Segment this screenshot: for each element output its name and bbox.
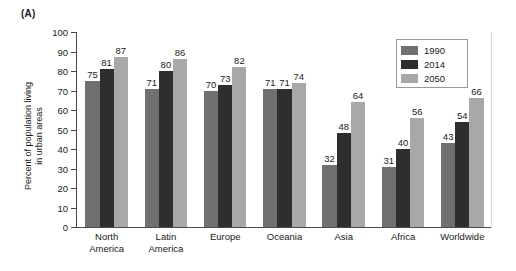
legend-label: 2050 xyxy=(424,73,445,84)
bar: 71 xyxy=(145,89,159,227)
y-tick-label: 10 xyxy=(57,202,68,213)
bar-value-label: 43 xyxy=(443,131,454,142)
x-axis-category-line: America xyxy=(136,243,195,255)
x-axis-category-line: North xyxy=(77,231,136,243)
bar: 82 xyxy=(232,67,246,227)
x-axis-category-line: America xyxy=(77,243,136,255)
bar-value-label: 81 xyxy=(101,57,112,68)
bar-value-label: 87 xyxy=(116,45,127,56)
bar: 74 xyxy=(292,83,306,227)
bar-value-label: 73 xyxy=(220,73,231,84)
x-axis-category-label: Europe xyxy=(196,231,255,243)
figure-panel-a: (A) Percent of population living in urba… xyxy=(0,0,516,271)
bar: 43 xyxy=(441,143,455,227)
y-tick-mark xyxy=(71,130,76,131)
bar-value-label: 40 xyxy=(398,137,409,148)
legend-item-1990: 1990 xyxy=(401,43,463,57)
x-axis-category-line: Africa xyxy=(373,231,432,243)
bar-group: 707382 xyxy=(204,32,247,227)
bar-value-label: 31 xyxy=(384,155,395,166)
legend-swatch-icon xyxy=(401,46,418,55)
bar: 86 xyxy=(173,59,187,227)
y-axis-title-line-1: Percent of population living xyxy=(23,82,34,190)
x-axis-category-line: Latin xyxy=(136,231,195,243)
legend-label: 2014 xyxy=(424,59,445,70)
bar: 64 xyxy=(351,102,365,227)
bar-value-label: 70 xyxy=(206,79,217,90)
legend-swatch-icon xyxy=(401,74,418,83)
bar: 80 xyxy=(159,71,173,227)
bar: 66 xyxy=(469,98,483,227)
y-tick-mark xyxy=(71,52,76,53)
bar: 71 xyxy=(263,89,277,227)
y-tick-label: 80 xyxy=(57,66,68,77)
y-tick-label: 100 xyxy=(52,27,68,38)
x-axis-category-line: Worldwide xyxy=(433,231,492,243)
bar: 70 xyxy=(204,91,218,228)
legend-item-2014: 2014 xyxy=(401,57,463,71)
bar-value-label: 64 xyxy=(353,90,364,101)
y-tick-label: 90 xyxy=(57,46,68,57)
bar-value-label: 66 xyxy=(471,86,482,97)
bar-value-label: 71 xyxy=(279,77,290,88)
x-axis-category-line: Asia xyxy=(314,231,373,243)
bar: 54 xyxy=(455,122,469,227)
chart-legend: 199020142050 xyxy=(396,39,468,88)
y-tick-mark xyxy=(71,169,76,170)
x-axis-category-label: Worldwide xyxy=(433,231,492,243)
bar-value-label: 71 xyxy=(146,77,157,88)
bar-group: 718086 xyxy=(145,32,188,227)
bar-value-label: 75 xyxy=(87,69,98,80)
x-axis-category-label: NorthAmerica xyxy=(77,231,136,255)
y-tick-label: 30 xyxy=(57,163,68,174)
y-tick-mark xyxy=(71,91,76,92)
x-axis-category-label: Asia xyxy=(314,231,373,243)
x-axis-category-label: LatinAmerica xyxy=(136,231,195,255)
y-tick-mark xyxy=(71,149,76,150)
y-axis-title-line-2: in urban areas xyxy=(34,107,45,165)
bar: 73 xyxy=(218,85,232,227)
bar-value-label: 74 xyxy=(293,71,304,82)
legend-item-2050: 2050 xyxy=(401,71,463,85)
bar: 71 xyxy=(277,89,291,227)
bar-value-label: 48 xyxy=(338,121,349,132)
bar-value-label: 54 xyxy=(457,110,468,121)
bar: 31 xyxy=(382,167,396,227)
y-tick-label: 60 xyxy=(57,105,68,116)
y-tick-label: 70 xyxy=(57,85,68,96)
bar-group: 758187 xyxy=(85,32,128,227)
y-tick-mark xyxy=(71,208,76,209)
bar: 81 xyxy=(100,69,114,227)
x-axis-category-label: Oceania xyxy=(255,231,314,243)
bar-value-label: 82 xyxy=(234,55,245,66)
y-tick-label: 50 xyxy=(57,124,68,135)
bar: 56 xyxy=(410,118,424,227)
bar-group: 717174 xyxy=(263,32,306,227)
y-axis-title: Percent of population living in urban ar… xyxy=(21,41,47,231)
bar-value-label: 86 xyxy=(175,47,186,58)
bar: 40 xyxy=(396,149,410,227)
x-axis-category-label: Africa xyxy=(373,231,432,243)
bar-value-label: 32 xyxy=(324,153,335,164)
bar: 87 xyxy=(114,57,128,227)
y-tick-label: 0 xyxy=(63,222,68,233)
y-tick-mark xyxy=(71,71,76,72)
legend-swatch-icon xyxy=(401,60,418,69)
bar: 75 xyxy=(85,81,99,227)
y-tick-mark xyxy=(71,188,76,189)
bar: 32 xyxy=(322,165,336,227)
x-axis-category-line: Europe xyxy=(196,231,255,243)
x-axis-category-labels: NorthAmericaLatinAmericaEuropeOceaniaAsi… xyxy=(77,231,492,269)
bar-value-label: 80 xyxy=(161,59,172,70)
y-tick-mark xyxy=(71,227,76,228)
x-axis-category-line: Oceania xyxy=(255,231,314,243)
bar-group: 324864 xyxy=(322,32,365,227)
legend-label: 1990 xyxy=(424,45,445,56)
bar-value-label: 56 xyxy=(412,106,423,117)
y-tick-label: 40 xyxy=(57,144,68,155)
bar-value-label: 71 xyxy=(265,77,276,88)
panel-label: (A) xyxy=(21,8,35,19)
x-axis-line xyxy=(76,227,492,228)
y-tick-mark xyxy=(71,32,76,33)
y-tick-label: 20 xyxy=(57,183,68,194)
